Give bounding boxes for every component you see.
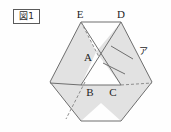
- vertex-label-a: A: [84, 51, 92, 63]
- vertex-label-e: E: [77, 8, 84, 20]
- region-marker-label-a: ア: [139, 46, 148, 56]
- geometry-diagram: E D A B C ア: [0, 0, 171, 132]
- vertex-label-d: D: [117, 8, 125, 20]
- vertex-label-b: B: [86, 86, 93, 98]
- figure-container: 図1 E D A B C ア: [0, 0, 171, 132]
- vertex-label-c: C: [109, 86, 116, 98]
